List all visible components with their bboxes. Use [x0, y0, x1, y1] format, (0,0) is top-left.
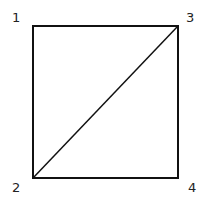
vertex-label-3: 3 — [186, 11, 194, 24]
diagonal-line — [33, 26, 178, 178]
vertex-label-2: 2 — [12, 181, 20, 194]
vertex-label-4: 4 — [188, 181, 196, 194]
square-diagram — [0, 0, 208, 204]
vertex-label-1: 1 — [12, 11, 20, 24]
